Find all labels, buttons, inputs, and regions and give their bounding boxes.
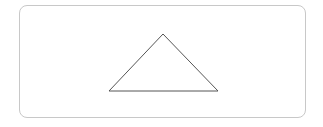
- shape-layer: [0, 0, 323, 127]
- triangle-shape: [109, 34, 218, 91]
- diagram-canvas: [0, 0, 323, 127]
